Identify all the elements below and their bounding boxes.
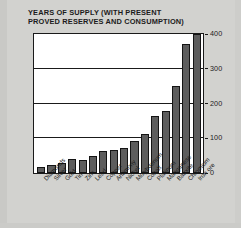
y-tick-mark xyxy=(205,138,208,139)
x-tick-label: Zinc xyxy=(83,177,88,182)
y-tick-mark xyxy=(205,103,208,104)
y-tick-mark xyxy=(205,34,208,35)
y-tick-label: 100 xyxy=(210,133,222,142)
y-tick-mark xyxy=(205,68,208,69)
bar xyxy=(193,34,201,173)
x-tick-label: Copper xyxy=(104,177,109,182)
y-tick-label: 300 xyxy=(210,64,222,73)
x-tick-label: Chromium xyxy=(186,177,191,182)
x-tick-label: Lead xyxy=(93,177,98,182)
x-tick-label: Nickel xyxy=(124,177,129,182)
x-tick-label: Silver xyxy=(52,177,57,182)
bar xyxy=(37,167,45,173)
y-tick-label: 200 xyxy=(210,99,222,108)
y-tick-label: 400 xyxy=(210,29,222,38)
x-tick-label: Iron ore xyxy=(196,177,201,182)
bar-series xyxy=(34,34,203,173)
x-tick-label: Molybdenum xyxy=(134,177,139,182)
x-tick-label: Cobalt xyxy=(145,177,150,182)
plot-area xyxy=(33,33,204,174)
x-tick-label: Platinum xyxy=(155,177,160,182)
x-tick-label: Tin xyxy=(73,177,78,182)
page-edge-left xyxy=(0,0,7,228)
x-tick-label: Antimony xyxy=(114,177,119,182)
x-tick-label: Diamonds xyxy=(42,177,47,182)
bar xyxy=(172,86,180,173)
figure: YEARS OF SUPPLY (WITH PRESENT PROVED RES… xyxy=(0,0,241,228)
y-axis: 0100200300400 xyxy=(205,33,239,174)
x-tick-label: Bauxite xyxy=(175,177,180,182)
chart-title: YEARS OF SUPPLY (WITH PRESENT PROVED RES… xyxy=(28,8,214,26)
x-tick-label: Gold xyxy=(63,177,68,182)
x-tick-label: Manganese xyxy=(165,177,170,182)
x-axis: DiamondsSilverGoldTinZincLeadCopperAntim… xyxy=(33,175,204,225)
